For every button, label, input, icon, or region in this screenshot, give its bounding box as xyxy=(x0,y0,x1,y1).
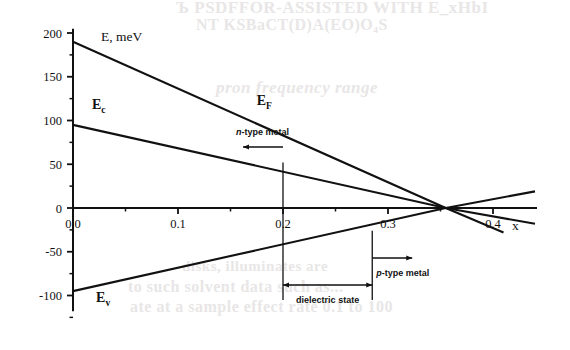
y-tick-label: 200 xyxy=(43,27,62,41)
x-tick-label: 0.1 xyxy=(170,217,186,231)
arrowhead-p-type xyxy=(406,255,412,260)
y-tick-label: -50 xyxy=(45,245,62,259)
series-label-E_v: Ev xyxy=(96,290,110,308)
arrowhead-dielectric-left xyxy=(283,282,289,287)
y-tick-label: 0 xyxy=(56,202,62,216)
y-tick-label: 150 xyxy=(43,70,62,84)
series-label-E_c: Ec xyxy=(92,97,106,115)
series-E_F xyxy=(73,42,504,233)
annotation-p-type-metal: p-type metal xyxy=(375,268,429,278)
annotation-dielectric-state: dielectric state xyxy=(296,295,359,305)
series-E_v xyxy=(73,191,535,291)
arrowhead-n-type xyxy=(243,144,249,149)
x-axis-title: x xyxy=(512,218,519,233)
y-tick-label: -100 xyxy=(39,289,62,303)
y-tick-label: 100 xyxy=(43,114,62,128)
band-energy-chart: 200150100500-50-1000.00.10.20.30.4EFEcEv… xyxy=(0,0,570,350)
figure-panel: Ъ PSDFFOR-ASSISTED WITH E_xHbI NT KSBaCT… xyxy=(0,0,570,350)
arrowhead-dielectric-right xyxy=(366,282,372,287)
y-tick-label: 50 xyxy=(50,158,63,172)
x-tick-label: 0.0 xyxy=(65,217,81,231)
series-label-E_F: EF xyxy=(257,93,272,111)
annotation-n-type-metal: n-type metal xyxy=(236,127,289,137)
y-axis-title: E, meV xyxy=(101,29,142,44)
